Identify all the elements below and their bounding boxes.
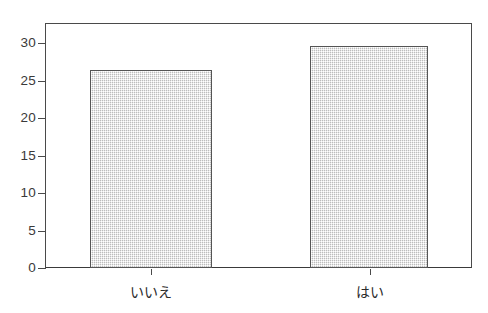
y-tick-mark-25 <box>38 81 45 82</box>
y-axis-label-5: 5 <box>12 223 36 238</box>
y-axis-label-10: 10 <box>12 185 36 200</box>
y-tick-mark-0 <box>38 268 45 269</box>
x-axis-label-hai: はい <box>356 281 384 301</box>
y-axis-label-0: 0 <box>12 260 36 275</box>
y-axis-label-20: 20 <box>12 110 36 125</box>
x-tick-mark-hai <box>370 269 371 275</box>
y-axis-label-30: 30 <box>12 35 36 50</box>
plot-area-frame <box>45 23 472 268</box>
x-axis-label-iie: いいえ <box>130 281 172 301</box>
bar-chart: 30 25 20 15 10 5 0 いいえ はい <box>0 0 488 313</box>
y-tick-mark-15 <box>38 156 45 157</box>
y-tick-mark-20 <box>38 118 45 119</box>
y-tick-mark-5 <box>38 231 45 232</box>
y-axis-label-25: 25 <box>12 73 36 88</box>
x-tick-mark-iie <box>151 269 152 275</box>
y-axis-label-15: 15 <box>12 148 36 163</box>
y-axis-line <box>45 23 46 269</box>
y-tick-mark-10 <box>38 193 45 194</box>
y-tick-mark-30 <box>38 43 45 44</box>
